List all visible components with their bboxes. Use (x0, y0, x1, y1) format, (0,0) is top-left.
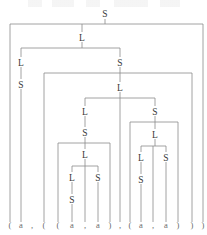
node-s-left: S (18, 80, 23, 90)
terminal-open-paren-2: ( (43, 220, 46, 230)
terminal-a-2: a (70, 220, 74, 230)
node-s-mid: S (117, 58, 122, 68)
terminal-comma-3: , (119, 220, 121, 230)
node-s-root: S (102, 9, 107, 19)
node-s-leafpair2-left: S (138, 175, 143, 185)
terminal-a-1: a (19, 220, 23, 230)
terminal-comma-4: , (152, 220, 154, 230)
terminal-open-paren-4: ( (129, 220, 132, 230)
parse-tree-figure: S L L S S L L S L L S S S L L S S ( a , … (0, 0, 207, 235)
node-s-leafpair-right: S (95, 173, 100, 183)
terminal-open-paren-1: ( (9, 220, 12, 230)
page-artifact-strip (28, 0, 180, 7)
terminal-close-paren-4: ) (202, 220, 205, 230)
node-s-inner-left: S (82, 128, 87, 138)
node-l-deep-left: L (82, 150, 88, 160)
tree-terminal-row: ( a , ( ( a , a ) , ( a , a ) ) ) (9, 220, 205, 230)
edge-group-l-deep-right (141, 139, 166, 222)
parse-tree-canvas: S L L S S L L S L L S S S L L S S ( a , … (0, 0, 207, 235)
tree-edges (10, 19, 203, 222)
node-l-mid: L (117, 83, 123, 93)
edge-group-l-level2 (21, 42, 120, 57)
terminal-close-paren-3: ) (191, 220, 194, 230)
node-l-left: L (18, 58, 24, 68)
node-s-inner-right: S (152, 107, 157, 117)
terminal-a-3: a (96, 220, 100, 230)
terminal-close-paren-1: ) (109, 220, 112, 230)
terminal-close-paren-2: ) (177, 220, 180, 230)
node-l-inner-left: L (82, 107, 88, 117)
node-l-deep-right: L (152, 130, 158, 140)
edge-group-s-root (10, 19, 203, 222)
terminal-comma-1: , (31, 220, 33, 230)
node-l-level2: L (79, 33, 85, 43)
edge-group-l-deep-left (72, 159, 98, 222)
tree-nonterminal-labels: S L L S S L L S L L S S S L L S S (18, 9, 169, 205)
terminal-a-4: a (139, 220, 143, 230)
terminal-open-paren-3: ( (57, 220, 60, 230)
node-l-leafpair2-left: L (138, 153, 144, 163)
terminal-a-5: a (164, 220, 168, 230)
edge-group-l-mid (85, 92, 155, 222)
terminal-comma-2: , (84, 220, 86, 230)
node-l-leafpair-left: L (69, 173, 75, 183)
node-s-leafpair-left: S (69, 195, 74, 205)
node-s-leafpair2-right: S (163, 153, 168, 163)
